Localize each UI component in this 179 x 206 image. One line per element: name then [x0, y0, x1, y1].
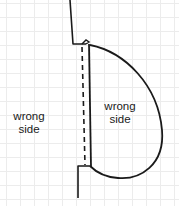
upper-fabric-edge [70, 0, 86, 44]
seam-fold-line [89, 44, 91, 167]
outside-wrong-side-label: wrong side [10, 110, 48, 136]
inside-label-line2: side [100, 113, 140, 126]
lower-fabric-edge [78, 166, 90, 198]
outside-label-line1: wrong [10, 110, 48, 123]
outside-label-line2: side [10, 123, 48, 136]
seam-diagram: wrong side wrong side [0, 0, 179, 206]
stitch-line [82, 47, 85, 165]
inside-label-line1: wrong [100, 100, 140, 113]
inside-wrong-side-label: wrong side [100, 100, 140, 126]
diagram-drawing [0, 0, 179, 206]
